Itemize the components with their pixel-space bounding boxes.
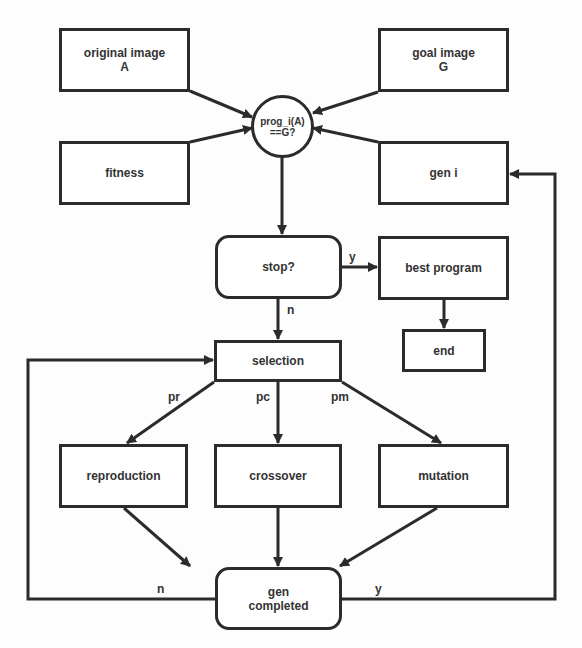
arrow-original-to-check [190,91,252,117]
label-pr: pr [168,390,180,404]
label-pc: pc [256,390,270,404]
gen-i-box: gen i [378,141,509,205]
label-gen-yes: y [375,582,382,596]
arrow-gen-to-check [313,128,378,142]
arrow-reproduction-to-gen [124,508,190,566]
goal-image-box: goal image G [378,28,509,92]
label-stop-no: n [287,303,294,317]
best-program-box: best program [378,236,509,300]
selection-box: selection [214,340,342,382]
arrow-mutation-to-gen [340,508,437,566]
arrow-goal-to-check [313,92,378,113]
program-check-circle: prog_i(A) ==G? [251,95,314,158]
stop-decision: stop? [215,235,342,299]
label-pm: pm [331,390,349,404]
crossover-box: crossover [214,444,342,508]
arrow-fitness-to-check [190,128,252,142]
end-box: end [402,329,486,372]
original-image-box: original image A [59,28,190,92]
gen-completed-decision: gen completed [215,567,342,630]
fitness-box: fitness [59,141,190,205]
label-gen-no: n [157,582,164,596]
mutation-box: mutation [378,444,509,508]
reproduction-box: reproduction [59,444,188,508]
label-stop-yes: y [349,250,356,264]
arrow-selection-to-mutation [342,382,441,443]
